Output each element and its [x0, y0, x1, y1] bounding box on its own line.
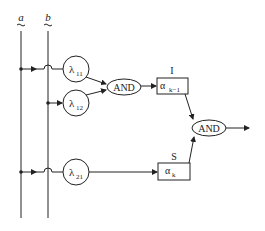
edge-a-lambda11 [19, 65, 63, 72]
svg-text:I: I [170, 65, 173, 76]
input-b-label: b [44, 11, 52, 26]
edge-b-lambda12 [46, 101, 62, 105]
svg-text:α: α [165, 165, 171, 176]
and-gate-2: AND [192, 120, 226, 136]
edge-lambda11-and1 [86, 77, 106, 84]
svg-text:12: 12 [76, 104, 84, 112]
svg-text:a: a [18, 11, 24, 23]
edge-boxI-and2 [185, 94, 193, 119]
lambda11-node: λ 11 [63, 56, 89, 82]
svg-text:λ: λ [69, 166, 75, 178]
edge-lambda12-and1 [86, 90, 106, 95]
and-gate-1: AND [107, 79, 141, 95]
svg-text:k: k [172, 171, 176, 179]
lambda12-node: λ 12 [63, 90, 89, 116]
svg-text:AND: AND [113, 82, 135, 93]
svg-text:λ: λ [69, 97, 75, 109]
svg-text:λ: λ [69, 63, 75, 75]
svg-text:b: b [45, 11, 51, 23]
logic-diagram: a b λ 11 λ 12 λ 21 [0, 0, 265, 231]
svg-text:k−1: k−1 [169, 86, 180, 94]
edge-a-lambda21 [19, 168, 63, 175]
svg-text:11: 11 [76, 70, 83, 78]
svg-text:21: 21 [76, 173, 84, 181]
alpha-k-box: S α k [158, 151, 190, 180]
svg-text:S: S [171, 151, 177, 162]
svg-text:α: α [160, 80, 166, 91]
edge-boxS-and2 [189, 137, 194, 163]
input-a-label: a [17, 11, 25, 26]
lambda21-node: λ 21 [63, 159, 89, 185]
svg-text:AND: AND [198, 123, 220, 134]
alpha-k-minus-1-box: I α k−1 [157, 65, 188, 94]
